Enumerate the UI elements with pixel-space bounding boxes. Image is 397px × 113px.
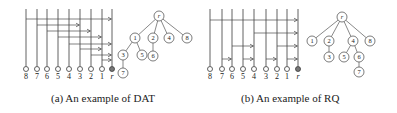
array-label-7: 7 bbox=[35, 72, 39, 81]
array-node-r bbox=[110, 67, 115, 72]
tree-node-label-3: 3 bbox=[327, 53, 330, 60]
array-node-6 bbox=[230, 67, 235, 72]
tree-edge-r-8 bbox=[346, 20, 366, 37]
array-node-5 bbox=[56, 67, 61, 72]
tree-node-label-2: 2 bbox=[151, 34, 154, 41]
array-label-2: 2 bbox=[275, 72, 279, 81]
array-label-3: 3 bbox=[78, 72, 82, 81]
figure-a-array-diagram: 87654321r bbox=[24, 9, 115, 81]
tree-edge-1-5 bbox=[137, 43, 140, 51]
array-label-6: 6 bbox=[230, 72, 234, 81]
array-node-3 bbox=[264, 67, 269, 72]
array-label-1: 1 bbox=[100, 72, 104, 81]
tree-node-label-3: 3 bbox=[121, 51, 124, 58]
array-node-2 bbox=[89, 67, 94, 72]
tree-node-label-8: 8 bbox=[185, 34, 188, 41]
tree-edge-r-1 bbox=[139, 19, 156, 34]
tree-edge-r-2 bbox=[331, 21, 339, 36]
array-node-5 bbox=[241, 67, 246, 72]
array-node-7 bbox=[220, 67, 225, 72]
caption-a: (a) An example of DAT bbox=[51, 92, 155, 104]
tree-node-label-8: 8 bbox=[368, 37, 371, 44]
array-label-6: 6 bbox=[45, 72, 49, 81]
tree-edge-r-4 bbox=[161, 21, 167, 34]
figure-b-array-diagram: 87654321r bbox=[208, 9, 301, 81]
tree-node-label-2: 2 bbox=[327, 37, 330, 44]
array-label-2: 2 bbox=[89, 72, 93, 81]
tree-node-label-5: 5 bbox=[140, 51, 143, 58]
array-node-2 bbox=[275, 67, 280, 72]
tree-node-label-1: 1 bbox=[133, 34, 136, 41]
array-label-1: 1 bbox=[285, 72, 289, 81]
array-label-8: 8 bbox=[208, 72, 212, 81]
tree-edge-4-5 bbox=[346, 45, 350, 52]
tree-edge-r-2 bbox=[154, 21, 157, 33]
array-node-r bbox=[296, 67, 301, 72]
array-label-5: 5 bbox=[241, 72, 245, 81]
tree-edge-r-8 bbox=[163, 19, 183, 35]
array-node-6 bbox=[45, 67, 50, 72]
array-node-7 bbox=[35, 67, 40, 72]
tree-edge-4-6 bbox=[355, 46, 357, 53]
figure-a-tree: r12483567 bbox=[118, 11, 192, 78]
array-label-8: 8 bbox=[24, 72, 28, 81]
array-node-4 bbox=[67, 67, 72, 72]
array-node-8 bbox=[24, 67, 29, 72]
array-node-1 bbox=[285, 67, 290, 72]
array-label-3: 3 bbox=[264, 72, 268, 81]
array-label-r: r bbox=[296, 72, 300, 81]
tree-node-label-1: 1 bbox=[310, 37, 313, 44]
array-label-5: 5 bbox=[56, 72, 60, 81]
caption-b: (b) An example of RQ bbox=[241, 92, 339, 104]
figure-b-tree: r12483567 bbox=[307, 12, 375, 77]
array-node-4 bbox=[252, 67, 257, 72]
array-label-4: 4 bbox=[67, 72, 71, 81]
array-node-8 bbox=[208, 67, 213, 72]
array-label-7: 7 bbox=[220, 72, 224, 81]
array-label-4: 4 bbox=[252, 72, 256, 81]
array-node-1 bbox=[100, 67, 105, 72]
array-node-3 bbox=[78, 67, 83, 72]
tree-edge-r-1 bbox=[316, 20, 338, 38]
tree-node-label-5: 5 bbox=[342, 53, 345, 60]
tree-edge-1-3 bbox=[126, 42, 132, 51]
array-label-r: r bbox=[110, 72, 114, 81]
